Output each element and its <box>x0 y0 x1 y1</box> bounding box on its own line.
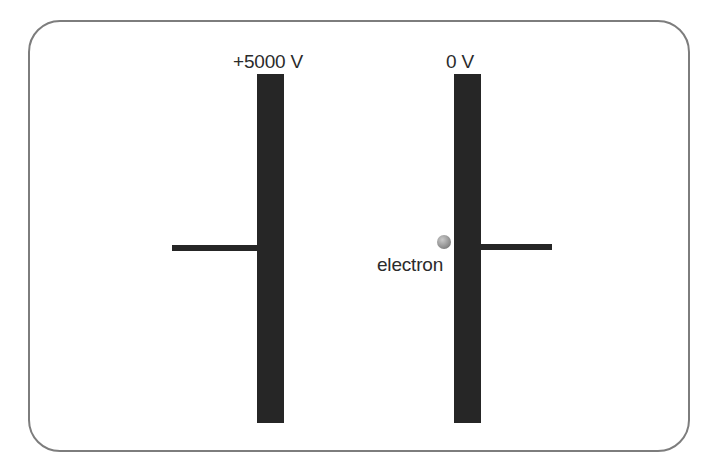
electron-particle-icon <box>437 235 451 249</box>
rounded-border-frame <box>28 20 690 452</box>
wire-lead-right <box>465 244 552 250</box>
plate-right-voltage-label: 0 V <box>446 52 474 72</box>
electron-label: electron <box>377 255 443 275</box>
plate-left-voltage-label: +5000 V <box>233 52 303 72</box>
wire-lead-left <box>172 245 271 251</box>
diagram-canvas: +5000 V 0 V electron <box>0 0 717 466</box>
